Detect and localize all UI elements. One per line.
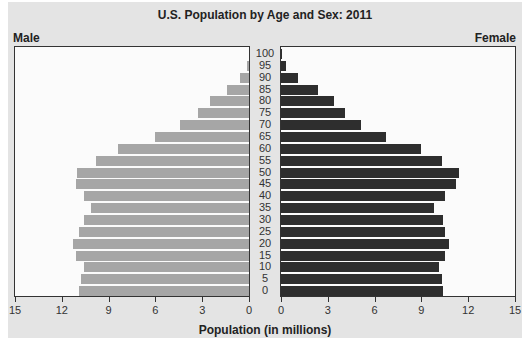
male-bar-age-60: [118, 144, 249, 154]
age-tick-label: 65: [250, 130, 280, 142]
age-tick-label: 10: [250, 260, 280, 272]
age-tick-label: 50: [250, 166, 280, 178]
female-bar-age-70: [281, 120, 361, 130]
female-x-tick: [468, 297, 469, 302]
female-x-tick: [421, 297, 422, 302]
female-bar-age-95: [281, 61, 286, 71]
female-bar-age-75: [281, 108, 345, 118]
female-bar-age-5: [281, 274, 442, 284]
male-label: Male: [13, 31, 40, 45]
male-bar-age-80: [210, 96, 249, 106]
male-bar-age-50: [77, 168, 249, 178]
male-x-tick-label: 12: [47, 304, 77, 316]
female-x-tick-label: 0: [266, 304, 296, 316]
age-tick-label: 15: [250, 249, 280, 261]
male-x-tick-label: 15: [0, 304, 30, 316]
age-tick-label: 95: [250, 59, 280, 71]
female-x-tick: [328, 297, 329, 302]
female-bar-age-90: [281, 73, 298, 83]
male-bar-age-70: [180, 120, 249, 130]
male-bar-age-55: [96, 156, 249, 166]
age-tick-label: 100: [250, 47, 280, 59]
female-bar-age-80: [281, 96, 334, 106]
age-tick-label: 45: [250, 177, 280, 189]
age-tick-label: 0: [250, 284, 280, 296]
female-bar-age-100: [281, 49, 282, 59]
male-bar-age-15: [76, 251, 249, 261]
female-bar-age-45: [281, 179, 456, 189]
female-bar-age-85: [281, 85, 318, 95]
male-x-tick-label: 3: [187, 304, 217, 316]
male-bar-age-95: [247, 61, 249, 71]
female-bar-age-30: [281, 215, 443, 225]
female-x-tick-label: 6: [360, 304, 390, 316]
female-bar-age-15: [281, 251, 445, 261]
age-tick-label: 25: [250, 225, 280, 237]
female-bar-age-50: [281, 168, 459, 178]
age-tick-label: 5: [250, 272, 280, 284]
age-tick-label: 20: [250, 237, 280, 249]
female-x-tick-label: 12: [453, 304, 483, 316]
male-bar-age-40: [84, 191, 249, 201]
age-tick-label: 75: [250, 106, 280, 118]
female-bar-age-40: [281, 191, 445, 201]
age-tick-label: 90: [250, 71, 280, 83]
female-x-tick: [515, 297, 516, 302]
female-x-tick-label: 15: [500, 304, 530, 316]
female-x-tick: [375, 297, 376, 302]
female-bar-age-20: [281, 239, 449, 249]
male-bar-age-65: [155, 132, 249, 142]
chart-title: U.S. Population by Age and Sex: 2011: [0, 8, 530, 22]
age-tick-label: 35: [250, 201, 280, 213]
male-bar-age-35: [91, 203, 249, 213]
male-bar-age-25: [79, 227, 249, 237]
age-tick-label: 40: [250, 189, 280, 201]
male-x-tick: [249, 297, 250, 302]
female-bar-age-60: [281, 144, 421, 154]
female-x-tick-label: 3: [313, 304, 343, 316]
male-bar-age-90: [240, 73, 249, 83]
male-bar-age-30: [84, 215, 249, 225]
male-x-tick: [202, 297, 203, 302]
male-x-tick-label: 9: [94, 304, 124, 316]
female-bar-age-25: [281, 227, 445, 237]
male-bar-age-45: [76, 179, 249, 189]
male-x-tick-label: 6: [140, 304, 170, 316]
female-x-tick: [281, 297, 282, 302]
female-bar-age-55: [281, 156, 442, 166]
male-x-tick: [15, 297, 16, 302]
age-tick-label: 30: [250, 213, 280, 225]
female-bar-age-35: [281, 203, 434, 213]
male-bar-age-85: [227, 85, 249, 95]
male-plot-area: [14, 46, 250, 297]
age-tick-label: 55: [250, 154, 280, 166]
x-axis-label: Population (in millions): [0, 323, 530, 337]
age-tick-label: 85: [250, 83, 280, 95]
age-tick-label: 60: [250, 142, 280, 154]
male-bar-age-10: [84, 262, 249, 272]
female-plot-area: [280, 46, 516, 297]
female-x-tick-label: 9: [406, 304, 436, 316]
male-x-tick: [62, 297, 63, 302]
male-x-tick-label: 0: [234, 304, 264, 316]
female-bar-age-65: [281, 132, 386, 142]
male-x-tick: [109, 297, 110, 302]
female-bar-age-0: [281, 286, 443, 296]
male-bar-age-75: [198, 108, 249, 118]
male-bar-age-5: [81, 274, 249, 284]
female-label: Female: [475, 31, 516, 45]
female-bar-age-10: [281, 262, 439, 272]
male-bar-age-20: [73, 239, 249, 249]
age-tick-label: 80: [250, 94, 280, 106]
male-bar-age-0: [79, 286, 249, 296]
age-tick-label: 70: [250, 118, 280, 130]
male-x-tick: [155, 297, 156, 302]
